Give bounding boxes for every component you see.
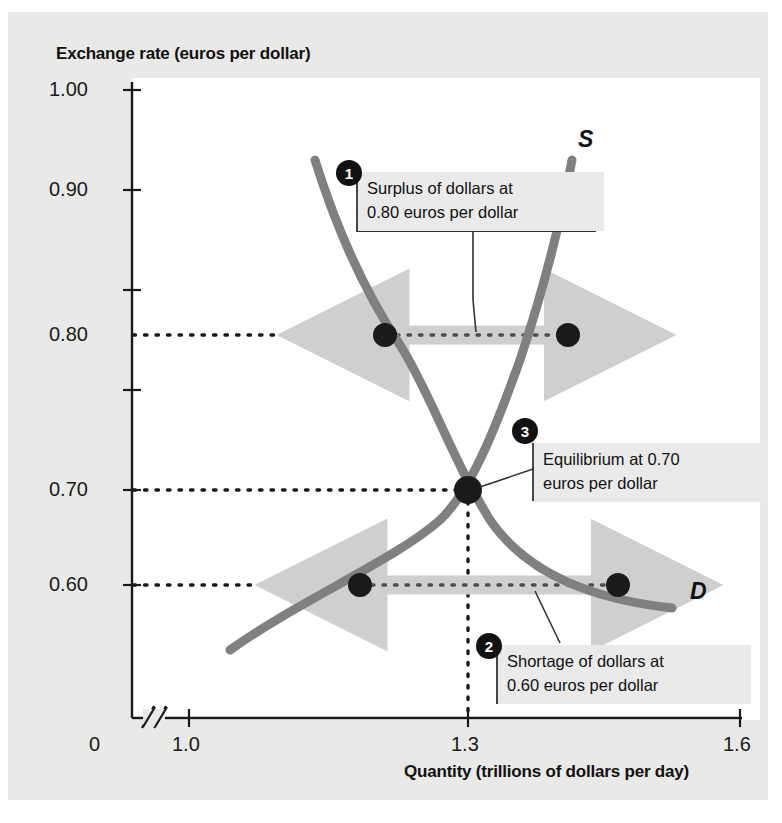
- x-tick-label-1-6: 1.6: [723, 733, 751, 756]
- point-shortage-demand: [606, 573, 630, 597]
- point-surplus-supply: [556, 323, 580, 347]
- leader-line-callout-1: [473, 231, 476, 332]
- point-equilibrium: [454, 476, 482, 504]
- x-tick-label-1-0: 1.0: [172, 733, 200, 756]
- demand-curve-label: D: [690, 578, 707, 605]
- y-tick-label-1-00: 1.00: [49, 78, 88, 101]
- callout-badge-1: 1: [336, 160, 362, 186]
- point-surplus-demand: [373, 323, 397, 347]
- y-axis-title: Exchange rate (euros per dollar): [56, 44, 310, 64]
- exchange-rate-market-figure: Exchange rate (euros per dollar) Quantit…: [0, 0, 782, 823]
- callout-badge-3: 3: [512, 418, 538, 444]
- callout-surplus: Surplus of dollars at 0.80 euros per dol…: [358, 172, 604, 231]
- x-axis-break-mask: [143, 709, 165, 727]
- x-axis-title: Quantity (trillions of dollars per day): [404, 762, 689, 782]
- callout-equilibrium: Equilibrium at 0.70 euros per dollar: [534, 443, 768, 502]
- callout-badge-2: 2: [476, 633, 502, 659]
- x-tick-label-0: 0: [89, 733, 100, 756]
- supply-curve-label: S: [578, 126, 593, 153]
- y-tick-label-0-80: 0.80: [49, 323, 88, 346]
- y-tick-label-0-60: 0.60: [49, 573, 88, 596]
- point-shortage-supply: [348, 573, 372, 597]
- y-tick-label-0-70: 0.70: [49, 478, 88, 501]
- leader-line-callout-2: [535, 591, 560, 643]
- x-tick-label-1-3: 1.3: [451, 733, 479, 756]
- callout-shortage: Shortage of dollars at 0.60 euros per do…: [498, 645, 751, 704]
- y-tick-label-0-90: 0.90: [49, 178, 88, 201]
